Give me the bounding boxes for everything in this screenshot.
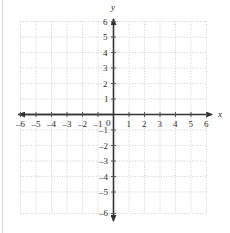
- xtick-label-2: 2: [142, 120, 147, 129]
- coordinate-grid-svg: [0, 0, 230, 233]
- ytick-label-2: 2: [103, 80, 108, 89]
- ytick-label-5: 5: [103, 33, 108, 42]
- ytick-label-4: 4: [103, 49, 108, 58]
- ytick-label-3: 3: [103, 64, 108, 73]
- ytick-label-1: 1: [104, 95, 109, 104]
- ytick-label-6: 6: [103, 18, 108, 27]
- xtick-label-5: 5: [189, 120, 194, 129]
- x-axis-label: x: [218, 110, 222, 119]
- y-axis-label: y: [111, 3, 115, 12]
- ytick-label-neg3: –3: [99, 157, 108, 166]
- ytick-label-neg2: –2: [99, 142, 108, 151]
- xtick-label-neg5: –5: [32, 120, 41, 129]
- ytick-label-neg6: –6: [99, 209, 108, 218]
- coordinate-plane-figure: –6 –5 –4 –3 –2 –1 0 1 2 3 4 5 6 6 5 4 3 …: [0, 0, 230, 233]
- xtick-label-neg6: –6: [16, 120, 25, 129]
- xtick-label-neg4: –4: [47, 120, 56, 129]
- ytick-label-neg5: –5: [99, 188, 108, 197]
- ytick-label-neg1: –1: [99, 126, 108, 135]
- xtick-label-neg3: –3: [63, 120, 72, 129]
- xtick-label-3: 3: [158, 120, 163, 129]
- xtick-label-6: 6: [204, 120, 209, 129]
- ytick-label-neg4: –4: [99, 173, 108, 182]
- xtick-label-neg2: –2: [78, 120, 87, 129]
- xtick-label-4: 4: [173, 120, 178, 129]
- xtick-label-1: 1: [127, 120, 132, 129]
